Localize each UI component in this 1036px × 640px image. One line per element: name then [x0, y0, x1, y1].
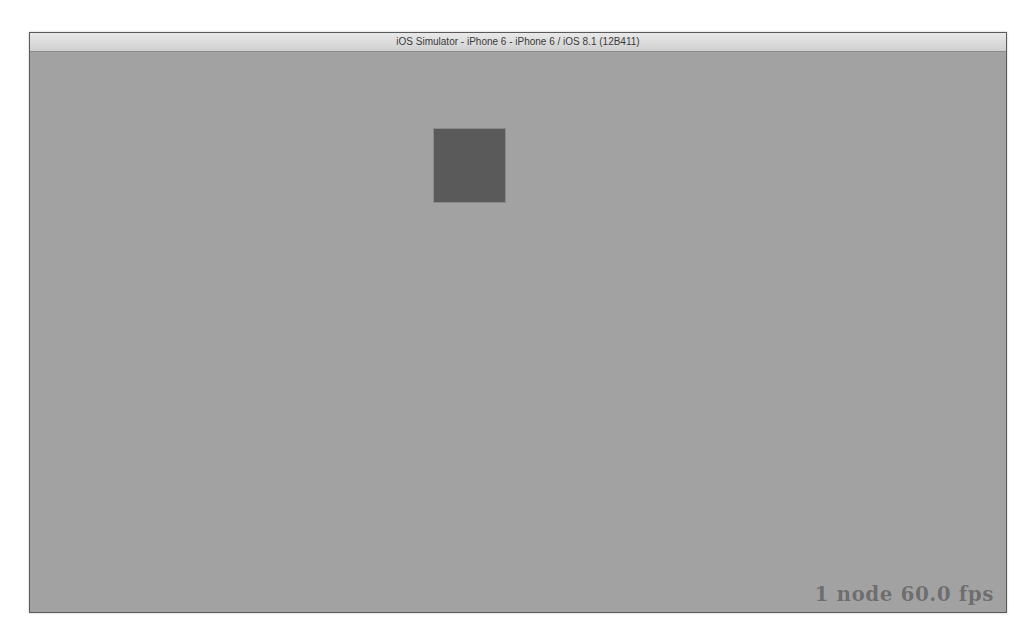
spritekit-scene[interactable]: 1 node 60.0 fps [30, 52, 1006, 612]
window-titlebar[interactable]: iOS Simulator - iPhone 6 - iPhone 6 / iO… [30, 33, 1006, 52]
window-title: iOS Simulator - iPhone 6 - iPhone 6 / iO… [396, 36, 639, 47]
simulator-window: iOS Simulator - iPhone 6 - iPhone 6 / iO… [29, 32, 1007, 613]
square-sprite-node [433, 128, 506, 203]
stats-overlay: 1 node 60.0 fps [815, 582, 994, 606]
